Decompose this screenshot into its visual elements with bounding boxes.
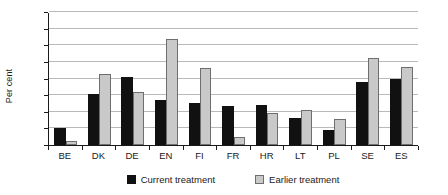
bar-de-earlier (133, 92, 144, 145)
x-axis-label-dk: DK (82, 150, 116, 161)
bar-lt-earlier (301, 110, 312, 145)
plot-area (48, 13, 418, 146)
legend-label: Current treatment (141, 174, 215, 185)
x-axis-label-fi: FI (183, 150, 217, 161)
bar-chart: Per cent 01020304050607080 BEDKDEENFIFRH… (0, 0, 448, 195)
bar-group (116, 13, 150, 145)
x-axis-label-de: DE (115, 150, 149, 161)
x-axis-label-fr: FR (216, 150, 250, 161)
bar-be-current (54, 128, 65, 145)
bar-group (83, 13, 117, 145)
bar-group (284, 13, 318, 145)
bar-group (49, 13, 83, 145)
black-square-icon (127, 175, 136, 184)
legend-label: Earlier treatment (269, 174, 339, 185)
bar-group (150, 13, 184, 145)
bar-group (183, 13, 217, 145)
x-axis-label-lt: LT (283, 150, 317, 161)
bar-pl-earlier (334, 119, 345, 145)
gray-square-icon (255, 175, 264, 184)
bar-group (384, 13, 418, 145)
bar-fi-earlier (200, 68, 211, 145)
x-axis-label-es: ES (384, 150, 418, 161)
chart-legend: Current treatmentEarlier treatment (48, 171, 418, 187)
bar-pl-current (323, 130, 334, 145)
x-axis-label-se: SE (351, 150, 385, 161)
bar-es-current (390, 79, 401, 145)
x-axis-label-en: EN (149, 150, 183, 161)
bar-es-earlier (401, 67, 412, 145)
y-axis-title-text: Per cent (4, 69, 14, 103)
bar-lt-current (289, 118, 300, 145)
bar-group (217, 13, 251, 145)
bar-group (351, 13, 385, 145)
bar-se-current (356, 82, 367, 145)
x-axis-label-hr: HR (250, 150, 284, 161)
x-axis-labels: BEDKDEENFIFRHRLTPLSEES (48, 150, 418, 161)
x-axis-tick (418, 146, 419, 150)
bar-dk-earlier (99, 74, 110, 145)
bar-se-earlier (368, 58, 379, 145)
x-axis-label-be: BE (48, 150, 82, 161)
bar-fi-current (189, 103, 200, 145)
bar-hr-earlier (267, 113, 278, 145)
bar-en-earlier (166, 39, 177, 145)
legend-item-current: Current treatment (127, 174, 215, 185)
x-axis-label-pl: PL (317, 150, 351, 161)
gridline (49, 11, 418, 12)
bar-be-earlier (66, 141, 77, 145)
bar-de-current (121, 77, 132, 145)
bar-fr-current (222, 106, 233, 145)
bar-group (317, 13, 351, 145)
y-axis-title: Per cent (2, 56, 16, 116)
bar-en-current (155, 100, 166, 145)
bar-dk-current (88, 94, 99, 145)
legend-item-earlier: Earlier treatment (255, 174, 339, 185)
bar-group (250, 13, 284, 145)
bar-groups (49, 13, 418, 145)
bar-hr-current (256, 105, 267, 145)
bar-fr-earlier (234, 137, 245, 145)
